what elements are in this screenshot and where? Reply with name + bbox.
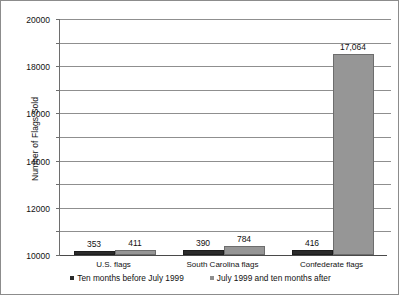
y-axis-right-tick — [387, 19, 391, 20]
gridline — [60, 19, 387, 20]
y-axis-tick: 4000 — [56, 208, 60, 209]
y-axis-right-tick — [387, 43, 391, 44]
y-axis-tick: 2000 — [56, 231, 60, 232]
y-axis-right-tick — [387, 161, 391, 162]
legend-swatch-icon — [210, 276, 214, 280]
category-label: U.S. flags — [96, 260, 131, 269]
y-axis-tick-label: 20000 — [26, 15, 50, 25]
gridline — [60, 43, 387, 44]
y-axis-tick: 0 — [56, 255, 60, 256]
category-label: Confederate flags — [300, 260, 363, 269]
y-axis-tick: 20000 — [56, 19, 60, 20]
legend-item-series-1[interactable]: July 1999 and ten months after — [210, 273, 331, 283]
y-axis-right-tick — [387, 113, 391, 114]
bar-value-label: 17,064 — [340, 42, 366, 52]
y-axis-tick: 16000 — [56, 66, 60, 67]
chart-legend: Ten months before July 1999 July 1999 an… — [1, 273, 399, 283]
y-axis-right-tick — [387, 231, 391, 232]
plot-area: 0200040006000800010000120001400016000180… — [59, 19, 387, 255]
y-axis-right-tick — [387, 184, 391, 185]
bar-value-label: 411 — [128, 238, 142, 248]
gridline — [60, 255, 387, 256]
y-axis-tick: 14000 — [56, 90, 60, 91]
bar-1-2[interactable] — [333, 54, 374, 255]
bar-value-label: 784 — [237, 234, 251, 244]
bar-0-0[interactable] — [74, 251, 115, 255]
bar-chart-figure: Number of Flags Sold 0200040006000800010… — [0, 0, 399, 295]
bar-value-label: 353 — [87, 239, 101, 249]
y-axis-tick-label: 16000 — [26, 109, 50, 119]
y-axis-tick: 10000 — [56, 137, 60, 138]
y-axis-tick-label: 10000 — [26, 251, 50, 261]
y-axis-right-tick — [387, 208, 391, 209]
legend-label: July 1999 and ten months after — [217, 273, 331, 283]
bar-value-label: 390 — [196, 238, 210, 248]
y-axis-tick: 18000 — [56, 43, 60, 44]
legend-item-series-0[interactable]: Ten months before July 1999 — [70, 273, 184, 283]
bar-0-2[interactable] — [292, 250, 333, 255]
y-axis-right-tick — [387, 66, 391, 67]
legend-label: Ten months before July 1999 — [77, 273, 184, 283]
y-axis-tick: 12000 — [56, 113, 60, 114]
y-axis-tick: 6000 — [56, 184, 60, 185]
legend-swatch-icon — [70, 276, 74, 280]
y-axis-right-tick — [387, 90, 391, 91]
bar-0-1[interactable] — [183, 250, 224, 255]
y-axis-right-tick — [387, 137, 391, 138]
bar-value-label: 416 — [305, 238, 319, 248]
bar-1-1[interactable] — [224, 246, 265, 255]
y-axis-tick: 8000 — [56, 161, 60, 162]
y-axis-tick-label: 18000 — [26, 62, 50, 72]
y-axis-tick-label: 14000 — [26, 157, 50, 167]
y-axis-title: Number of Flags Sold — [30, 59, 40, 219]
bar-1-0[interactable] — [115, 250, 156, 255]
y-axis-tick-label: 12000 — [26, 204, 50, 214]
category-label: South Carolina flags — [186, 260, 258, 269]
